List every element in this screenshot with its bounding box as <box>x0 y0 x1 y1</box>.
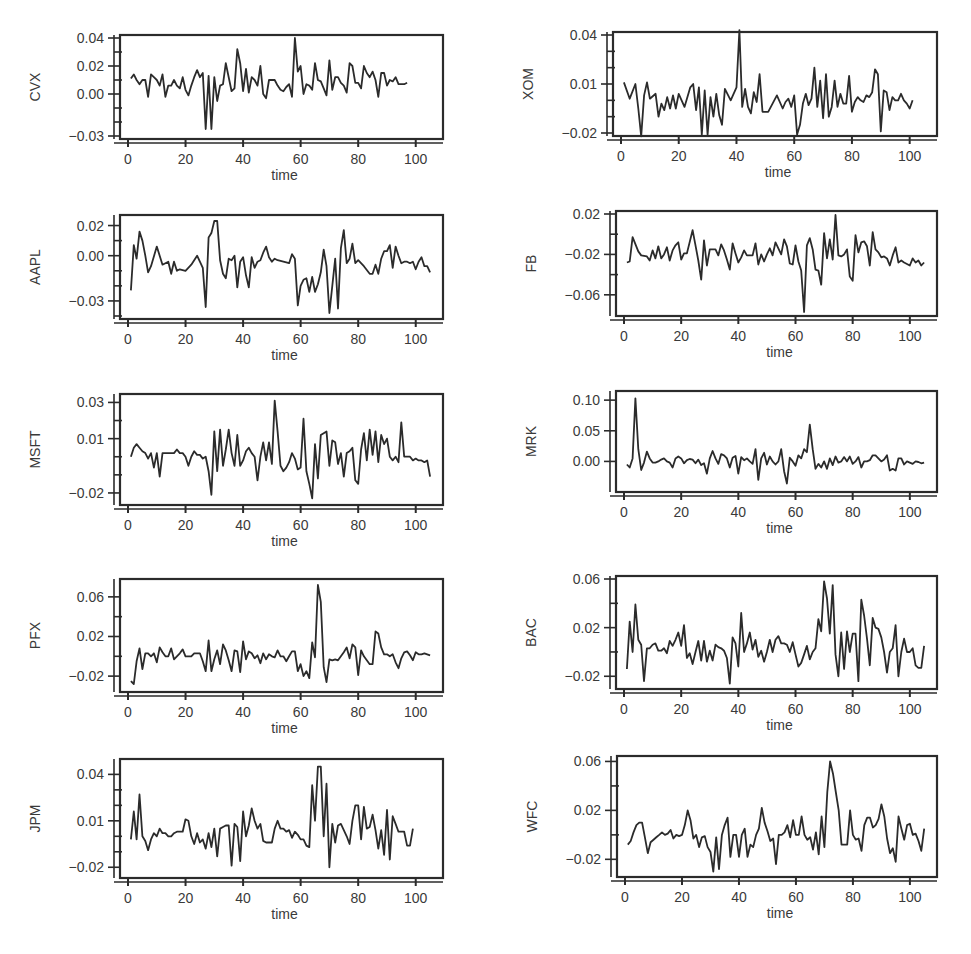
y-tick-label: 0.04 <box>570 27 597 43</box>
x-tick-label: 60 <box>293 331 309 347</box>
chart-svg: 0.060.02−0.02020406080100timeWFC <box>490 745 971 954</box>
y-tick-label: −0.02 <box>69 485 105 501</box>
y-tick-label: −0.03 <box>69 293 105 309</box>
series-line <box>131 38 407 129</box>
series-line <box>627 215 924 312</box>
plot-frame <box>613 32 937 136</box>
y-tick-label: −0.02 <box>566 851 602 867</box>
y-axis-label: JPM <box>27 805 43 833</box>
x-tick-label: 40 <box>731 889 747 905</box>
x-tick-label: 40 <box>235 704 251 720</box>
x-tick-label: 80 <box>844 148 860 164</box>
x-axis-label: time <box>271 533 298 549</box>
x-tick-label: 60 <box>788 889 804 905</box>
y-tick-label: 0.05 <box>573 423 600 439</box>
x-tick-label: 20 <box>673 504 689 520</box>
y-tick-label: 0.01 <box>570 76 597 92</box>
x-tick-label: 80 <box>845 701 861 717</box>
x-tick-label: 80 <box>350 151 366 167</box>
y-axis-label: MSFT <box>27 430 43 469</box>
y-tick-label: 0.03 <box>77 394 104 410</box>
series-line <box>131 585 430 684</box>
x-axis-label: time <box>271 720 298 736</box>
chart-svg: 0.040.01−0.02020406080100timeXOM <box>490 0 971 190</box>
x-tick-label: 20 <box>673 328 689 344</box>
panel-bac: 0.060.02−0.02020406080100timeBAC <box>490 560 971 745</box>
x-tick-label: 100 <box>898 701 922 717</box>
x-tick-label: 60 <box>788 701 804 717</box>
chart-svg: 0.040.020.00−0.03020406080100timeCVX <box>0 0 485 190</box>
x-tick-label: 40 <box>731 328 747 344</box>
chart-svg: 0.020.00−0.03020406080100timeAAPL <box>0 190 485 370</box>
y-axis-label: BAC <box>523 618 539 647</box>
y-tick-label: 0.06 <box>573 571 600 587</box>
y-tick-label: 0.01 <box>77 431 104 447</box>
series-line <box>627 398 924 483</box>
y-tick-label: 0.00 <box>77 86 104 102</box>
x-tick-label: 100 <box>898 504 922 520</box>
x-tick-label: 100 <box>898 328 922 344</box>
x-tick-label: 40 <box>235 517 251 533</box>
y-tick-label: −0.02 <box>69 668 105 684</box>
x-tick-label: 80 <box>350 517 366 533</box>
x-tick-label: 60 <box>293 890 309 906</box>
x-tick-label: 60 <box>788 328 804 344</box>
x-tick-label: 20 <box>178 517 194 533</box>
y-tick-label: 0.04 <box>77 766 104 782</box>
plot-frame <box>120 215 443 319</box>
y-axis-label: XOM <box>520 68 536 100</box>
y-tick-label: −0.02 <box>562 125 598 141</box>
plot-frame <box>120 394 443 505</box>
x-tick-label: 60 <box>293 517 309 533</box>
x-tick-label: 100 <box>404 890 428 906</box>
x-tick-label: 40 <box>731 701 747 717</box>
x-axis-label: time <box>767 905 794 921</box>
x-tick-label: 80 <box>845 889 861 905</box>
x-axis-label: time <box>766 520 793 536</box>
x-tick-label: 40 <box>235 331 251 347</box>
chart-svg: 0.060.02−0.02020406080100timeBAC <box>490 560 971 745</box>
x-tick-label: 40 <box>731 504 747 520</box>
x-tick-label: 0 <box>621 889 629 905</box>
y-tick-label: 0.02 <box>77 218 104 234</box>
panel-msft: 0.030.01−0.02020406080100timeMSFT <box>0 370 485 560</box>
y-tick-label: −0.02 <box>565 246 601 262</box>
series-line <box>131 401 430 499</box>
x-tick-label: 20 <box>178 151 194 167</box>
y-tick-label: 0.02 <box>77 58 104 74</box>
x-tick-label: 100 <box>404 331 428 347</box>
x-tick-label: 20 <box>178 331 194 347</box>
panel-fb: 0.02−0.02−0.06020406080100timeFB <box>490 190 971 370</box>
x-tick-label: 0 <box>124 517 132 533</box>
panel-pfx: 0.060.02−0.02020406080100timePFX <box>0 560 485 745</box>
x-axis-label: time <box>271 167 298 183</box>
panel-aapl: 0.020.00−0.03020406080100timeAAPL <box>0 190 485 370</box>
y-tick-label: −0.02 <box>69 859 105 875</box>
y-axis-label: CVX <box>27 72 43 101</box>
y-tick-label: 0.02 <box>77 628 104 644</box>
plot-frame <box>616 391 937 492</box>
x-axis-label: time <box>766 717 793 733</box>
x-tick-label: 20 <box>674 889 690 905</box>
x-tick-label: 20 <box>178 704 194 720</box>
x-tick-label: 0 <box>124 890 132 906</box>
y-tick-label: 0.02 <box>574 802 601 818</box>
series-line <box>131 767 413 868</box>
y-tick-label: 0.00 <box>573 453 600 469</box>
y-axis-label: MRK <box>523 425 539 457</box>
plot-frame <box>120 579 443 692</box>
x-tick-label: 100 <box>404 704 428 720</box>
x-tick-label: 0 <box>620 701 628 717</box>
chart-svg: 0.060.02−0.02020406080100timePFX <box>0 560 485 745</box>
chart-svg: 0.040.01−0.02020406080100timeJPM <box>0 745 485 954</box>
x-tick-label: 20 <box>673 701 689 717</box>
y-tick-label: 0.02 <box>573 206 600 222</box>
x-tick-label: 0 <box>124 331 132 347</box>
x-tick-label: 60 <box>293 151 309 167</box>
x-tick-label: 100 <box>404 517 428 533</box>
x-tick-label: 80 <box>350 331 366 347</box>
x-tick-label: 20 <box>178 890 194 906</box>
x-tick-label: 0 <box>620 504 628 520</box>
panel-jpm: 0.040.01−0.02020406080100timeJPM <box>0 745 485 954</box>
x-tick-label: 0 <box>620 328 628 344</box>
